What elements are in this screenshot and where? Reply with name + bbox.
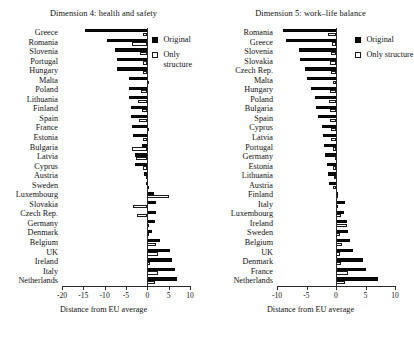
legend-swatch-structure-icon (355, 52, 361, 58)
legend-swatch-original-icon (355, 37, 361, 43)
bar-row: Latvia (207, 133, 414, 143)
bar-row: Estonia (207, 162, 414, 172)
legend-label-original: Original (163, 35, 190, 44)
axis-tick-label: -20 (57, 291, 67, 300)
bar-only-structure (137, 214, 147, 217)
bar-only-structure (147, 195, 168, 198)
legend-right: Original Only structure (355, 35, 413, 66)
zero-reference-line (147, 28, 148, 286)
bar-row: Luxembourg (0, 190, 207, 200)
category-label: Latvia (252, 133, 273, 143)
category-label: UK (46, 248, 58, 258)
category-label: Italy (258, 200, 273, 210)
axis-title: Distance from EU average (207, 305, 414, 314)
category-label: Romania (28, 38, 58, 48)
bar-row: Hungary (207, 85, 414, 95)
category-label: Poland (35, 85, 58, 95)
axis-tick-label: -5 (123, 291, 129, 300)
category-label: Belgium (245, 238, 273, 248)
bar-only-structure (138, 100, 147, 103)
axis-tick (277, 286, 278, 290)
axis-tick-label: 10 (186, 291, 194, 300)
bar-row: Luxembourg (207, 209, 414, 219)
category-label: Denmark (243, 257, 273, 267)
axis-tick (169, 286, 170, 290)
bar-row: Belgium (0, 238, 207, 248)
bar-row: Italy (0, 267, 207, 277)
bar-only-structure (329, 100, 336, 103)
axis-tick (307, 286, 308, 290)
category-label: Germany (243, 152, 273, 162)
category-label: Sweden (247, 228, 273, 238)
bar-only-structure (147, 243, 156, 246)
legend-entry-original: Original (152, 35, 192, 44)
axis-tick-label: 0 (334, 291, 338, 300)
category-label: Greece (250, 38, 273, 48)
category-label: Malta (39, 76, 58, 86)
bar-original (85, 29, 147, 32)
bar-original (325, 153, 336, 156)
panel-dimension-4: Dimension 4: health and safety GreeceRom… (0, 0, 207, 347)
bar-row: France (207, 267, 414, 277)
category-label: Germany (28, 219, 58, 229)
bar-row: Lithuania (0, 95, 207, 105)
category-label: Netherlands (233, 276, 273, 286)
category-label: Finland (248, 190, 273, 200)
axis-tick (147, 286, 148, 290)
category-label: Slovenia (244, 47, 273, 57)
bar-row: Bulgaria (207, 104, 414, 114)
category-label: Denmark (28, 228, 58, 238)
axis-tick (126, 286, 127, 290)
axis-tick (105, 286, 106, 290)
category-label: Finland (33, 104, 58, 114)
category-label: Bulgaria (245, 104, 273, 114)
category-label: Czech Rep. (20, 209, 58, 219)
category-label: Lithuania (27, 95, 58, 105)
bar-only-structure (330, 109, 336, 112)
category-label: Netherlands (18, 276, 58, 286)
bar-row: Austria (207, 181, 414, 191)
bar-only-structure (140, 52, 148, 55)
bar-only-structure (330, 61, 336, 64)
bar-original (147, 201, 156, 204)
bar-original (307, 77, 336, 80)
panel-dimension-5: Dimension 5: work–life balance RomaniaGr… (207, 0, 414, 347)
category-label: Bulgaria (30, 143, 58, 153)
bar-original (132, 125, 147, 128)
bar-row: Ireland (0, 257, 207, 267)
bar-row: Cyprus (207, 123, 414, 133)
legend-label-only-structure: Only structure (163, 50, 192, 69)
category-label: Hungary (29, 66, 58, 76)
bar-rows-right: RomaniaGreeceSloveniaSlovakiaCzech Rep.M… (207, 28, 414, 286)
legend-swatch-structure-icon (152, 52, 158, 58)
legend-label-original: Original (366, 35, 393, 44)
bar-row: Slovakia (0, 200, 207, 210)
axis-tick (83, 286, 84, 290)
axis-tick-label: -10 (100, 291, 110, 300)
bar-only-structure (336, 224, 347, 227)
category-label: Romania (243, 28, 273, 38)
legend-left: Original Only structure (152, 35, 192, 75)
bar-only-structure (136, 157, 147, 160)
axis-tick-label: 0 (145, 291, 149, 300)
legend-label-only-structure: Only structure (366, 50, 413, 59)
category-label: Slovenia (29, 47, 58, 57)
bar-only-structure (147, 271, 158, 274)
category-label: Luxembourg (231, 209, 273, 219)
bar-row: Germany (0, 219, 207, 229)
bar-only-structure (132, 147, 148, 150)
bar-only-structure (330, 119, 336, 122)
category-label: Ireland (35, 257, 58, 267)
bar-row: Sweden (0, 181, 207, 191)
category-label: Austria (249, 181, 273, 191)
bar-row: Czech Rep. (207, 66, 414, 76)
category-label: Italy (43, 267, 58, 277)
axis-tick (62, 286, 63, 290)
category-label: France (251, 267, 273, 277)
bar-row: Cyprus (0, 162, 207, 172)
bar-original (147, 211, 156, 214)
axis-tick (395, 286, 396, 290)
category-label: Portugal (30, 57, 58, 67)
bar-row: Latvia (0, 152, 207, 162)
legend-swatch-original-icon (152, 37, 158, 43)
